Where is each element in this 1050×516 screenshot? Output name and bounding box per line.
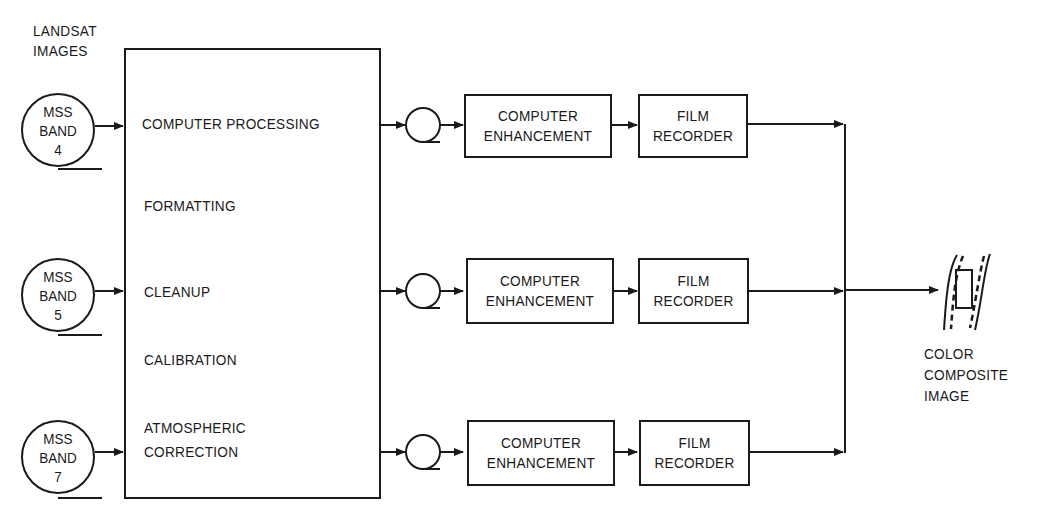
enhancement-line1: COMPUTER <box>475 106 602 126</box>
step-correction: CORRECTION <box>144 442 238 461</box>
band-line2: BAND <box>27 448 90 467</box>
band-line2: BAND <box>27 286 90 305</box>
band-line1: MSS <box>27 429 90 448</box>
computer-enhancement-box-1: COMPUTER ENHANCEMENT <box>464 94 612 158</box>
tape-reel-icon <box>406 274 440 308</box>
computer-enhancement-box-3: COMPUTER ENHANCEMENT <box>467 420 615 486</box>
enhancement-line1: COMPUTER <box>477 271 604 291</box>
recorder-line1: FILM <box>646 271 740 291</box>
tape-reel-icon <box>406 435 440 469</box>
film-strip-icon <box>944 254 990 330</box>
mss-band-7-node: MSS BAND 7 <box>21 420 95 494</box>
band-number: 5 <box>27 305 90 324</box>
tape-reel-icon <box>406 108 440 142</box>
band-line1: MSS <box>27 267 90 286</box>
output-label-line1: COLOR <box>924 343 1008 364</box>
mss-band-5-node: MSS BAND 5 <box>21 258 95 332</box>
recorder-line2: RECORDER <box>647 453 741 473</box>
band-number: 7 <box>27 467 90 486</box>
enhancement-line2: ENHANCEMENT <box>475 126 602 146</box>
step-formatting: FORMATTING <box>144 196 236 215</box>
recorder-line1: FILM <box>647 433 741 453</box>
step-cleanup: CLEANUP <box>144 282 210 301</box>
band-number: 4 <box>27 140 90 159</box>
recorder-line2: RECORDER <box>646 126 739 146</box>
recorder-line1: FILM <box>646 106 739 126</box>
film-recorder-box-1: FILM RECORDER <box>638 94 748 158</box>
step-calibration: CALIBRATION <box>144 350 237 369</box>
source-label-line2: IMAGES <box>33 41 97 60</box>
enhancement-line1: COMPUTER <box>478 433 605 453</box>
step-computer-processing: COMPUTER PROCESSING <box>142 114 320 133</box>
film-recorder-box-3: FILM RECORDER <box>639 420 750 486</box>
band-line1: MSS <box>27 102 90 121</box>
enhancement-line2: ENHANCEMENT <box>477 291 604 311</box>
step-atmospheric: ATMOSPHERIC <box>144 418 246 437</box>
output-label-line3: IMAGE <box>924 385 1008 406</box>
band-line2: BAND <box>27 121 90 140</box>
film-recorder-box-2: FILM RECORDER <box>638 258 749 324</box>
output-label-line2: COMPOSITE <box>924 364 1008 385</box>
recorder-line2: RECORDER <box>646 291 740 311</box>
output-label: COLOR COMPOSITE IMAGE <box>924 343 1008 406</box>
source-label: LANDSAT IMAGES <box>33 21 97 60</box>
computer-enhancement-box-2: COMPUTER ENHANCEMENT <box>466 258 614 324</box>
mss-band-4-node: MSS BAND 4 <box>21 93 95 167</box>
enhancement-line2: ENHANCEMENT <box>478 453 605 473</box>
source-label-line1: LANDSAT <box>33 21 97 40</box>
